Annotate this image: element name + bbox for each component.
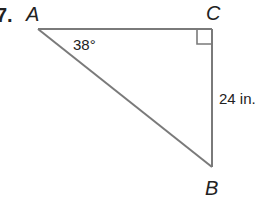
- angle-a-label: 38°: [73, 36, 96, 53]
- side-ab-hypotenuse: [38, 29, 212, 167]
- right-angle-marker-icon: [197, 29, 212, 44]
- side-cb-length-label: 24 in.: [219, 90, 256, 107]
- vertex-label-b: B: [205, 177, 218, 199]
- vertex-label-c: C: [206, 2, 221, 24]
- triangle-diagram: 7. A C B 38° 24 in.: [0, 0, 267, 213]
- vertex-label-a: A: [25, 3, 39, 25]
- problem-number: 7.: [0, 4, 13, 26]
